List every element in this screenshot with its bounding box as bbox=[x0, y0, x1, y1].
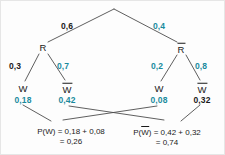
probability-tree-diagram: R R W W W W 0,6 0,4 0,3 0,7 0,2 0,8 0,18… bbox=[0, 0, 225, 155]
node-Rbar-W-bar: W bbox=[197, 84, 206, 95]
node-R-label: R bbox=[39, 42, 46, 53]
result-P-W-bar-total-line: = 0,74 bbox=[133, 138, 201, 148]
node-Rbar-W: W bbox=[154, 84, 163, 94]
result-P-W-bar-suffix: ) = bbox=[149, 128, 161, 137]
branch-label-root-to-Rbar: 0,4 bbox=[153, 22, 165, 31]
result-P-W-total-line: = 0,26 bbox=[37, 137, 105, 147]
leaf-value-Rbar-Wbar: 0,32 bbox=[194, 96, 211, 105]
result-P-W-bar-sum: 0,42 + 0,32 bbox=[161, 128, 201, 137]
node-R-bar: R bbox=[177, 44, 184, 55]
result-P-W-suffix: ) = bbox=[53, 127, 65, 136]
result-P-W-prefix: P( bbox=[37, 127, 45, 136]
node-R-W: W bbox=[18, 84, 27, 94]
branch-label-root-to-R: 0,6 bbox=[61, 22, 73, 31]
leaf-value-R-W: 0,18 bbox=[15, 96, 32, 105]
branch-label-R-to-W: 0,3 bbox=[9, 62, 21, 71]
result-formula-P-W-line1: P(W) = 0,18 + 0,08 bbox=[37, 127, 105, 137]
edge-root-to-Rbar bbox=[114, 9, 177, 42]
result-formula-P-W-bar: P(W) = 0,42 + 0,32 = 0,74 bbox=[133, 127, 201, 148]
result-P-W-bar-symbol: W bbox=[141, 127, 149, 138]
branch-label-Rbar-to-W: 0,2 bbox=[151, 62, 163, 71]
node-R-W-label: W bbox=[18, 83, 27, 94]
node-Rbar-W-label: W bbox=[154, 83, 163, 94]
edge-root-to-R bbox=[48, 9, 114, 42]
connector-RbarWbar-to-right-result bbox=[181, 105, 200, 121]
connector-RbarW-to-left-result bbox=[63, 106, 157, 120]
result-P-W-bar-prefix: P( bbox=[133, 128, 141, 137]
connector-RWbar-to-right-result bbox=[69, 106, 164, 120]
branch-label-Rbar-to-Wbar: 0,8 bbox=[195, 62, 207, 71]
result-P-W-symbol: W bbox=[45, 127, 53, 136]
connector-RW-to-left-result bbox=[23, 105, 51, 121]
result-P-W-sum: 0,18 + 0,08 bbox=[65, 127, 105, 136]
result-formula-P-W-bar-line1: P(W) = 0,42 + 0,32 bbox=[133, 127, 201, 138]
result-formula-P-W: P(W) = 0,18 + 0,08 = 0,26 bbox=[37, 127, 105, 147]
node-R: R bbox=[39, 43, 46, 53]
node-R-bar-label: R bbox=[177, 44, 184, 55]
edge-R-to-W bbox=[25, 54, 39, 81]
node-R-W-bar-label: W bbox=[62, 84, 71, 95]
leaf-value-R-Wbar: 0,42 bbox=[59, 96, 76, 105]
node-Rbar-W-bar-label: W bbox=[197, 84, 206, 95]
branch-label-R-to-Wbar: 0,7 bbox=[57, 62, 69, 71]
node-R-W-bar: W bbox=[62, 84, 71, 95]
edge-Rbar-to-W bbox=[161, 55, 177, 81]
leaf-value-Rbar-W: 0,08 bbox=[151, 96, 168, 105]
